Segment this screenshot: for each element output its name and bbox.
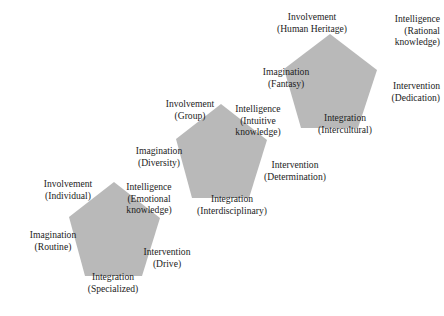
intelligence-emotional-knowledge-line-2: (Emotional — [126, 193, 171, 205]
imagination-routine-line-2: (Routine) — [30, 241, 76, 253]
integration-interdisciplinary: Integration(Interdisciplinary) — [197, 193, 267, 216]
intervention-dedication-line-2: (Dedication) — [392, 92, 440, 104]
involvement-individual-line-2: (Individual) — [44, 190, 93, 202]
intelligence-intuitive-knowledge: Intelligence(Intuitiveknowledge) — [235, 103, 280, 138]
integration-specialized-line-2: (Specialized) — [88, 283, 139, 295]
imagination-diversity-line-2: (Diversity) — [136, 157, 182, 169]
intelligence-emotional-knowledge-line-3: knowledge) — [126, 204, 171, 216]
imagination-routine: Imagination(Routine) — [30, 229, 76, 252]
intervention-determination-line-1: Intervention — [264, 159, 326, 171]
involvement-human-heritage-line-1: Involvement — [277, 11, 347, 23]
imagination-diversity: Imagination(Diversity) — [136, 145, 182, 168]
intelligence-rational-knowledge-line-3: knowledge) — [395, 36, 440, 48]
involvement-group-line-2: (Group) — [166, 110, 215, 122]
intelligence-intuitive-knowledge-line-2: (Intuitive — [235, 115, 280, 127]
imagination-routine-line-1: Imagination — [30, 229, 76, 241]
imagination-fantasy: Imagination(Fantasy) — [263, 66, 309, 89]
integration-specialized-line-1: Integration — [88, 271, 139, 283]
pentagon-shapes-layer — [0, 0, 444, 316]
involvement-individual: Involvement(Individual) — [44, 178, 93, 201]
integration-interdisciplinary-line-1: Integration — [197, 193, 267, 205]
imagination-fantasy-line-1: Imagination — [263, 66, 309, 78]
intervention-determination: Intervention(Determination) — [264, 159, 326, 182]
integration-intercultural: Integration(Intercultural) — [318, 112, 372, 135]
involvement-human-heritage-line-2: (Human Heritage) — [277, 23, 347, 35]
intelligence-rational-knowledge-line-2: (Rational — [395, 25, 440, 37]
intervention-dedication-line-1: Intervention — [392, 80, 440, 92]
integration-intercultural-line-2: (Intercultural) — [318, 124, 372, 136]
intervention-drive-line-1: Intervention — [144, 246, 191, 258]
intelligence-emotional-knowledge: Intelligence(Emotionalknowledge) — [126, 181, 171, 216]
involvement-group-line-1: Involvement — [166, 98, 215, 110]
intelligence-emotional-knowledge-line-1: Intelligence — [126, 181, 171, 193]
intervention-drive: Intervention(Drive) — [144, 246, 191, 269]
involvement-human-heritage: Involvement(Human Heritage) — [277, 11, 347, 34]
imagination-diversity-line-1: Imagination — [136, 145, 182, 157]
integration-interdisciplinary-line-2: (Interdisciplinary) — [197, 205, 267, 217]
intervention-determination-line-2: (Determination) — [264, 171, 326, 183]
involvement-individual-line-1: Involvement — [44, 178, 93, 190]
intelligence-intuitive-knowledge-line-1: Intelligence — [235, 103, 280, 115]
intelligence-intuitive-knowledge-line-3: knowledge) — [235, 126, 280, 138]
integration-intercultural-line-1: Integration — [318, 112, 372, 124]
intelligence-rational-knowledge-line-1: Intelligence — [395, 13, 440, 25]
pentagon-diagram: Involvement(Human Heritage)Intelligence(… — [0, 0, 444, 316]
integration-specialized: Integration(Specialized) — [88, 271, 139, 294]
intervention-dedication: Intervention(Dedication) — [392, 80, 440, 103]
imagination-fantasy-line-2: (Fantasy) — [263, 78, 309, 90]
intelligence-rational-knowledge: Intelligence(Rationalknowledge) — [395, 13, 440, 48]
intervention-drive-line-2: (Drive) — [144, 258, 191, 270]
involvement-group: Involvement(Group) — [166, 98, 215, 121]
